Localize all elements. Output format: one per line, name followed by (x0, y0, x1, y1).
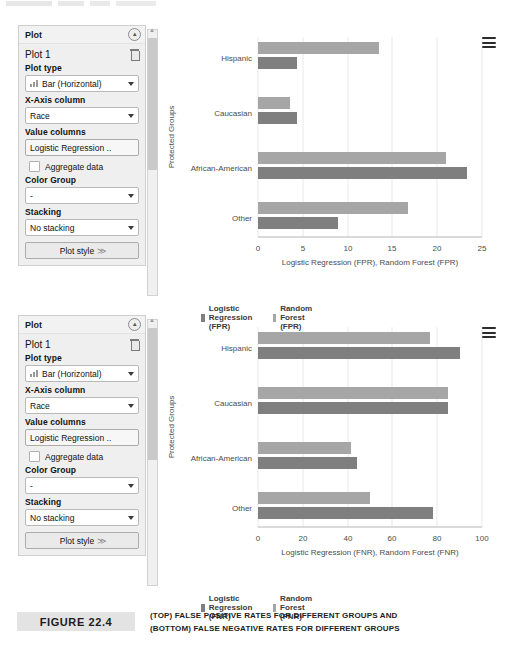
plot-type-value-1: Bar (Horizontal) (42, 79, 102, 89)
bar-random-forest-african-american (258, 152, 446, 164)
value-columns-button-1[interactable]: Logistic Regression .. (25, 139, 139, 156)
aggregate-data-checkbox-1[interactable] (29, 161, 40, 172)
sidebar-body-2: Plot 1 Plot type Bar (Horizontal) X-Axis… (19, 333, 145, 555)
xtick-3: 15 (388, 244, 397, 253)
value-columns-button-2[interactable]: Logistic Regression .. (25, 429, 139, 446)
bar-logistic-regression-caucasian (258, 112, 297, 124)
chart-fnr: Hispanic Caucasian African-American Othe… (160, 315, 506, 565)
scroll-up-icon[interactable]: ▲ (149, 318, 155, 323)
chart-fnr-svg: Hispanic Caucasian African-American Othe… (160, 315, 506, 565)
figure-caption: FIGURE 22.4 (TOP) FALSE POSITIVE RATES F… (0, 604, 506, 649)
aggregate-data-row-2[interactable]: Aggregate data (25, 451, 139, 462)
bar-chart-icon (30, 80, 38, 87)
stacking-value-2: No stacking (30, 513, 74, 523)
figure-page: Plot ▴ Plot 1 Plot type Bar (Horizontal)… (0, 0, 506, 649)
double-chevron-right-icon: ≫ (97, 536, 104, 546)
hamburger-menu-icon[interactable] (482, 327, 496, 338)
sidebar-scrollbar-1[interactable]: ▲ (147, 29, 158, 296)
stacking-label-1: Stacking (25, 207, 139, 217)
color-group-label-1: Color Group (25, 175, 139, 185)
x-axis-column-select-2[interactable]: Race (25, 397, 139, 414)
double-chevron-right-icon: ≫ (97, 246, 104, 256)
scrollbar-thumb-2[interactable] (148, 328, 157, 460)
chart-fpr: Hispanic Caucasian African-American Othe… (160, 25, 506, 275)
value-columns-label-2: Value columns (25, 417, 139, 427)
bar-logistic-regression-african-american (258, 167, 467, 179)
color-group-select-1[interactable]: - (25, 187, 139, 204)
xtick-5: 100 (475, 534, 489, 543)
aggregate-data-checkbox-2[interactable] (29, 451, 40, 462)
plot-type-label-2: Plot type (25, 353, 139, 363)
sidebar-scrollbar-2[interactable]: ▲ (147, 319, 158, 586)
plot-type-select-2[interactable]: Bar (Horizontal) (25, 365, 139, 382)
plot-type-select-1[interactable]: Bar (Horizontal) (25, 75, 139, 92)
ytick-hispanic: Hispanic (221, 344, 252, 353)
bar-logistic-regression-caucasian (258, 402, 448, 414)
sidebar-title-1: Plot (25, 30, 42, 40)
color-group-label-2: Color Group (25, 465, 139, 475)
bar-logistic-regression-african-american (258, 457, 357, 469)
chevron-down-icon (128, 226, 134, 230)
ytick-other: Other (232, 214, 252, 223)
y-axis-title-fnr: Protected Groups (167, 396, 176, 459)
chevron-down-icon (128, 404, 134, 408)
plot-style-button-2[interactable]: Plot style ≫ (25, 532, 139, 549)
ytick-caucasian: Caucasian (214, 109, 252, 118)
sidebar-header-1: Plot ▴ (19, 26, 145, 43)
x-axis-column-value-2: Race (30, 401, 50, 411)
figure-number-label: FIGURE 22.4 (40, 616, 113, 628)
collapse-chevron-icon[interactable]: ▴ (128, 318, 141, 331)
figure-number-tag: FIGURE 22.4 (17, 612, 135, 631)
sidebar-title-2: Plot (25, 320, 42, 330)
stacking-select-1[interactable]: No stacking (25, 219, 139, 236)
figure-caption-text: (TOP) FALSE POSITIVE RATES FOR DIFFERENT… (150, 610, 500, 635)
plot-name-label-2: Plot 1 (25, 339, 51, 350)
x-axis-column-label-2: X-Axis column (25, 385, 139, 395)
x-axis-title-fpr: Logistic Regression (FPR), Random Forest… (282, 258, 459, 267)
aggregate-data-row-1[interactable]: Aggregate data (25, 161, 139, 172)
hamburger-menu-icon[interactable] (482, 37, 496, 48)
chevron-down-icon (128, 372, 134, 376)
plot-row-2: Plot 1 (25, 339, 139, 350)
xtick-0: 0 (256, 244, 261, 253)
bar-random-forest-african-american (258, 442, 351, 454)
figure-caption-line-1: (TOP) FALSE POSITIVE RATES FOR DIFFERENT… (150, 610, 500, 623)
x-axis-column-select-1[interactable]: Race (25, 107, 139, 124)
plot-name-label-1: Plot 1 (25, 49, 51, 60)
sidebar-header-2: Plot ▴ (19, 316, 145, 333)
value-columns-value-2: Logistic Regression .. (30, 433, 111, 443)
chevron-down-icon (128, 194, 134, 198)
bar-random-forest-other (258, 492, 370, 504)
chevron-down-icon (128, 82, 134, 86)
bar-random-forest-other (258, 202, 408, 214)
plot-style-button-1[interactable]: Plot style ≫ (25, 242, 139, 259)
figure-caption-line-2: (BOTTOM) FALSE NEGATIVE RATES FOR DIFFER… (150, 623, 500, 636)
ytick-hispanic: Hispanic (221, 54, 252, 63)
plot-type-value-2: Bar (Horizontal) (42, 369, 102, 379)
scroll-up-icon[interactable]: ▲ (149, 28, 155, 33)
scrollbar-thumb-1[interactable] (148, 38, 157, 170)
trash-icon[interactable] (130, 339, 139, 350)
plot-type-label-1: Plot type (25, 63, 139, 73)
trash-icon[interactable] (130, 49, 139, 60)
plot-config-sidebar-1: Plot ▴ Plot 1 Plot type Bar (Horizontal)… (18, 25, 146, 266)
xtick-0: 0 (256, 534, 261, 543)
aggregate-data-label-2: Aggregate data (45, 452, 103, 462)
xtick-5: 25 (478, 244, 487, 253)
x-axis-title-fnr: Logistic Regression (FNR), Random Forest… (281, 548, 459, 557)
ytick-african-american: African-American (191, 454, 252, 463)
stacking-value-1: No stacking (30, 223, 74, 233)
collapse-chevron-icon[interactable]: ▴ (128, 28, 141, 41)
stacking-label-2: Stacking (25, 497, 139, 507)
xtick-2: 40 (344, 534, 353, 543)
chevron-down-icon (128, 114, 134, 118)
value-columns-label-1: Value columns (25, 127, 139, 137)
stacking-select-2[interactable]: No stacking (25, 509, 139, 526)
chevron-down-icon (128, 484, 134, 488)
value-columns-value-1: Logistic Regression .. (30, 143, 111, 153)
bar-chart-icon (30, 370, 38, 377)
color-group-select-2[interactable]: - (25, 477, 139, 494)
bar-random-forest-hispanic (258, 42, 379, 54)
color-group-value-2: - (30, 481, 33, 491)
sidebar-body-1: Plot 1 Plot type Bar (Horizontal) X-Axis… (19, 43, 145, 265)
